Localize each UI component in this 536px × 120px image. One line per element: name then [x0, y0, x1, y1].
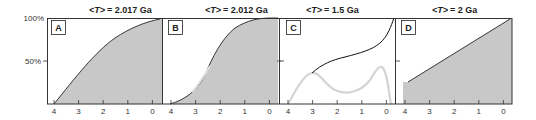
panel-c-letter: C [290, 23, 297, 33]
panel-c-title-value: = 1.5 Ga [324, 5, 360, 15]
x-tick-label: 3 [76, 107, 81, 116]
panel-b-title-var: <T> [205, 5, 222, 15]
x-tick-label: 2 [218, 107, 223, 116]
panel-b-letter: B [172, 23, 179, 33]
panel-b-title-value: = 2.012 Ga [223, 5, 269, 15]
x-tick-label: 0 [150, 107, 155, 116]
figure: 100% 50% A <T> = 2.017 Ga B <T> = 2.012 … [0, 0, 536, 120]
panel-a-title-var: <T> [89, 5, 106, 15]
panel-d-title-value: = 2 Ga [450, 5, 478, 15]
x-tick-label: 4 [403, 107, 408, 116]
x-tick-label: 4 [286, 107, 291, 116]
panel-d: D <T> = 2 Ga [395, 5, 512, 104]
y-label-50: 50% [25, 57, 41, 66]
x-tick-label: 1 [360, 107, 365, 116]
x-tick-label: 0 [384, 107, 389, 116]
x-tick-label: 1 [243, 107, 248, 116]
panel-a-title-value: = 2.017 Ga [107, 5, 153, 15]
panel-a-area [54, 19, 162, 104]
panel-d-area [403, 19, 512, 104]
x-tick-label: 4 [169, 107, 174, 116]
x-tick-label: 3 [310, 107, 315, 116]
x-tick-label: 0 [501, 107, 506, 116]
panel-c-distribution-curve [288, 67, 391, 104]
panel-d-letter: D [405, 23, 412, 33]
x-tick-label: 2 [335, 107, 340, 116]
x-tick-label: 3 [193, 107, 198, 116]
x-tick-label: 4 [52, 107, 57, 116]
panel-d-title-var: <T> [432, 5, 449, 15]
panel-b: B <T> = 2.012 Ga [169, 5, 282, 104]
x-tick-label: 1 [126, 107, 131, 116]
x-tick-label: 3 [427, 107, 432, 116]
panel-b-area [170, 18, 278, 104]
panel-c-cumulative-curve [312, 18, 394, 73]
x-tick-label: 2 [452, 107, 457, 116]
panel-a-letter: A [55, 23, 62, 33]
x-tick-label: 0 [267, 107, 272, 116]
panel-c-title-var: <T> [306, 5, 323, 15]
x-tick-label: 2 [101, 107, 106, 116]
x-tick-label: 1 [477, 107, 482, 116]
panel-a: A <T> = 2.017 Ga [52, 5, 163, 104]
panel-c: C <T> = 1.5 Ga [279, 5, 394, 104]
y-label-100: 100% [24, 14, 44, 23]
